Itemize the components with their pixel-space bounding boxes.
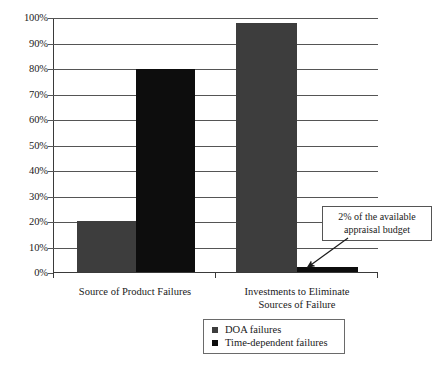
y-tick-label-100: 100% <box>4 13 48 23</box>
gridline-70 <box>53 95 378 96</box>
y-tick-label-90: 90% <box>4 39 48 49</box>
legend-swatch-doa-failures <box>212 327 218 333</box>
gridline-30 <box>53 197 378 198</box>
bar-source-of-product-failures-time-dependent <box>136 69 195 272</box>
annotation-line2: appraisal budget <box>326 223 428 236</box>
y-tick-label-70: 70% <box>4 90 48 100</box>
x-tick-left-edge <box>53 272 54 278</box>
y-axis-tick-labels: 100% 90% 80% 70% 60% 50% 40% 30% 20% 10%… <box>0 18 48 273</box>
gridline-100 <box>53 18 378 19</box>
category-label-source-of-product-failures: Source of Product Failures <box>54 285 216 298</box>
legend-swatch-time-dependent-failures <box>212 340 218 346</box>
category-label-line1: Investments to Eliminate <box>216 285 378 298</box>
x-tick-group-divider <box>215 272 216 278</box>
category-label-investments-to-eliminate: Investments to Eliminate Sources of Fail… <box>216 285 378 311</box>
legend-label-doa-failures: DOA failures <box>225 323 281 336</box>
legend: DOA failures Time-dependent failures <box>203 319 345 354</box>
gridline-40 <box>53 171 378 172</box>
y-tick-label-10: 10% <box>4 243 48 253</box>
bar-chart: 100% 90% 80% 70% 60% 50% 40% 30% 20% 10%… <box>0 0 435 370</box>
bar-investments-to-eliminate-doa <box>236 23 297 272</box>
y-tick-label-50: 50% <box>4 141 48 151</box>
category-label-line1: Source of Product Failures <box>79 286 191 297</box>
y-tick-label-0: 0% <box>4 268 48 278</box>
gridline-80 <box>53 69 378 70</box>
gridline-90 <box>53 44 378 45</box>
y-tick-label-20: 20% <box>4 217 48 227</box>
gridline-50 <box>53 146 378 147</box>
category-label-line2: Sources of Failure <box>216 298 378 311</box>
y-tick-label-60: 60% <box>4 115 48 125</box>
annotation-callout-2-percent: 2% of the available appraisal budget <box>322 206 432 241</box>
bar-investments-to-eliminate-time-dependent <box>297 267 358 272</box>
legend-item-time-dependent-failures: Time-dependent failures <box>212 336 338 349</box>
gridline-60 <box>53 120 378 121</box>
y-tick-label-30: 30% <box>4 192 48 202</box>
annotation-line1: 2% of the available <box>326 210 428 223</box>
x-tick-right-edge <box>377 272 378 278</box>
bar-source-of-product-failures-doa <box>77 221 136 272</box>
y-tick-label-80: 80% <box>4 64 48 74</box>
legend-item-doa-failures: DOA failures <box>212 323 338 336</box>
y-tick-label-40: 40% <box>4 166 48 176</box>
legend-label-time-dependent-failures: Time-dependent failures <box>225 336 328 349</box>
